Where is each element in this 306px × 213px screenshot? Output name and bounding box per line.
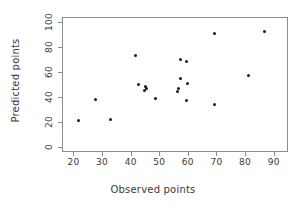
plot-frame: [62, 17, 288, 152]
data-area: [63, 18, 287, 151]
data-point: [179, 58, 182, 61]
x-axis-tick-label: 50: [153, 157, 165, 167]
y-axis-tick-label: 80: [44, 38, 54, 56]
data-point: [263, 30, 266, 33]
x-axis-tick: [245, 152, 246, 156]
y-axis-tick-label: 100: [44, 13, 54, 31]
data-point: [186, 82, 189, 85]
x-axis-tick-label: 60: [182, 157, 194, 167]
x-axis-tick-label: 90: [268, 157, 280, 167]
data-point: [213, 103, 216, 106]
y-axis-tick-label: 60: [44, 63, 54, 81]
y-axis-tick-label: 40: [44, 88, 54, 106]
y-axis-title: Predicted points: [8, 0, 22, 160]
y-axis-title-text: Predicted points: [10, 38, 21, 122]
data-point: [134, 54, 137, 57]
data-point: [247, 74, 250, 77]
x-axis-title: Observed points: [0, 184, 306, 195]
scatter-plot-figure: Predicted points 020406080100 2030405060…: [0, 0, 306, 213]
y-axis-tick-label: 20: [44, 113, 54, 131]
x-axis-tick: [102, 152, 103, 156]
y-axis-tick-label: 0: [44, 138, 54, 156]
data-point: [176, 90, 179, 93]
x-axis-tick-label: 40: [125, 157, 137, 167]
data-point: [179, 77, 182, 80]
data-point: [109, 118, 112, 121]
data-point: [77, 119, 80, 122]
x-axis-tick-label: 20: [67, 157, 79, 167]
x-axis-tick: [216, 152, 217, 156]
data-point: [145, 87, 148, 90]
data-point: [213, 32, 216, 35]
data-point: [185, 99, 188, 102]
x-axis-tick: [131, 152, 132, 156]
x-axis-tick-label: 70: [210, 157, 222, 167]
x-axis-tick-label: 30: [96, 157, 108, 167]
x-axis-tick: [188, 152, 189, 156]
x-axis-tick: [73, 152, 74, 156]
x-axis-tick-label: 80: [239, 157, 251, 167]
data-point: [185, 60, 188, 63]
x-axis-tick: [159, 152, 160, 156]
data-point: [154, 97, 157, 100]
data-point: [94, 98, 97, 101]
data-point: [177, 87, 180, 90]
x-axis-tick: [274, 152, 275, 156]
data-point: [137, 83, 140, 86]
